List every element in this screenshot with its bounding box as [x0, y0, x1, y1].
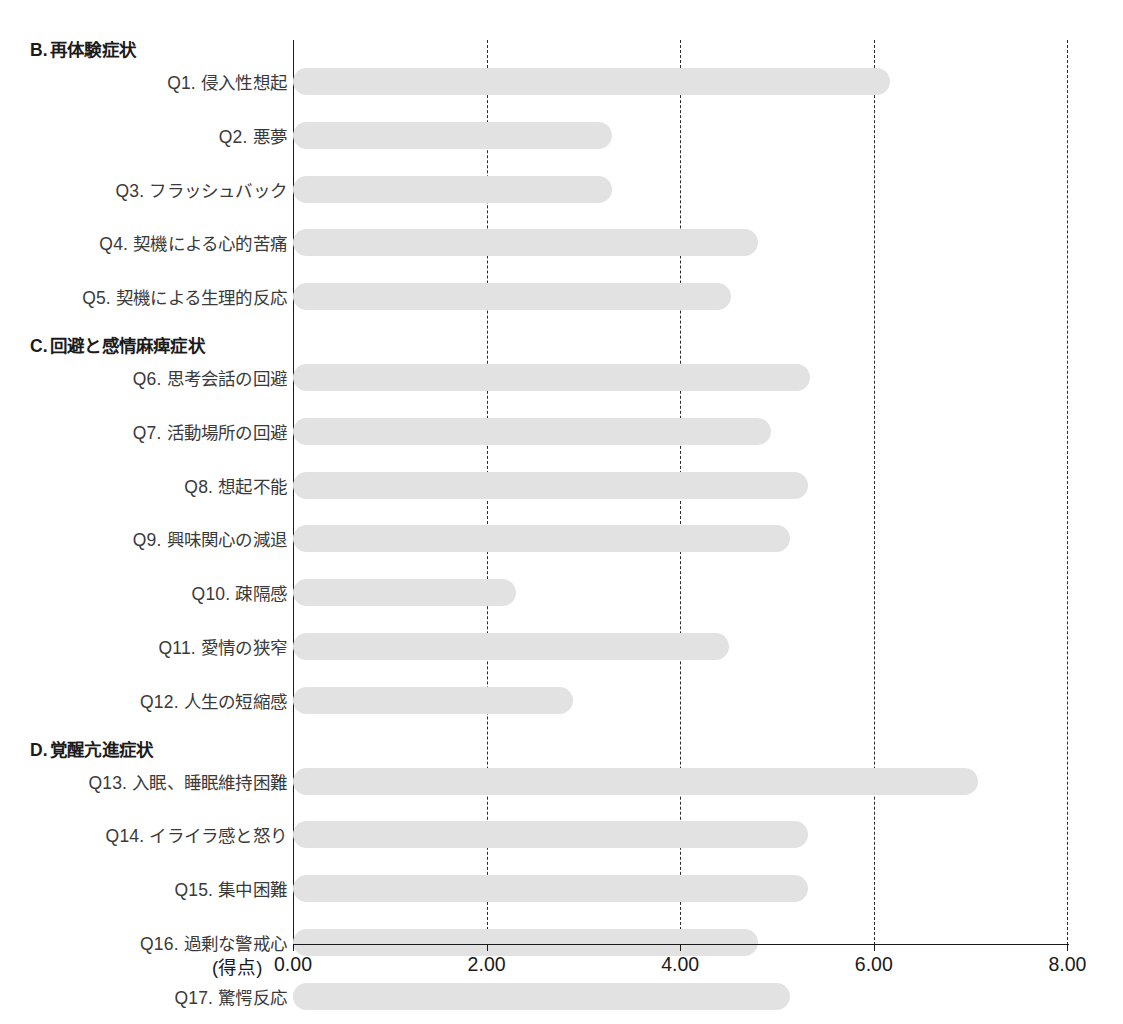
bar: [293, 68, 890, 95]
x-axis-unit-label: (得点): [212, 953, 262, 979]
section-heading-C: C.回避と感情麻痺症状: [30, 332, 205, 357]
section-heading-B: B.再体験症状: [30, 36, 136, 61]
bar-chart: B.再体験症状Q1. 侵入性想起Q2. 悪夢Q3. フラッシュバックQ4. 契機…: [0, 0, 1123, 1024]
bar: [293, 821, 808, 848]
bar-label: Q1. 侵入性想起: [167, 69, 287, 94]
section-title: 再体験症状: [50, 40, 136, 60]
bar: [293, 176, 612, 203]
gridline-6.00: [874, 40, 875, 945]
bar-label: Q4. 契機による心的苦痛: [99, 230, 287, 255]
section-letter: C.: [30, 336, 50, 357]
bar: [293, 525, 790, 552]
bar: [293, 768, 978, 795]
gridline-8.00: [1067, 40, 1068, 945]
bar-label: Q5. 契機による生理的反応: [82, 284, 287, 309]
bar: [293, 875, 808, 902]
bar-label: Q10. 疎隔感: [192, 580, 287, 605]
y-axis-line: [293, 40, 294, 945]
bar-label: Q9. 興味関心の減退: [133, 526, 287, 551]
bar: [293, 122, 612, 149]
section-title: 回避と感情麻痺症状: [50, 336, 205, 356]
section-heading-D: D.覚醒亢進症状: [30, 736, 153, 761]
x-tick-label-4.00: 4.00: [661, 953, 699, 976]
bar-label: Q15. 集中困難: [174, 876, 287, 901]
x-tick-label-2.00: 2.00: [468, 953, 506, 976]
section-title: 覚醒亢進症状: [50, 740, 153, 760]
x-tick-8.00: [1067, 944, 1068, 951]
bar: [293, 687, 573, 714]
bar-label: Q7. 活動場所の回避: [133, 419, 287, 444]
bar: [293, 579, 516, 606]
x-tick-2.00: [487, 944, 488, 951]
bar-label: Q12. 人生の短縮感: [140, 688, 287, 713]
bar: [293, 472, 808, 499]
bar-label: Q16. 過剰な警戒心: [140, 930, 287, 955]
chart-page: B.再体験症状Q1. 侵入性想起Q2. 悪夢Q3. フラッシュバックQ4. 契機…: [0, 0, 1123, 1024]
x-tick-4.00: [680, 944, 681, 951]
bar-label: Q6. 思考会話の回避: [133, 365, 287, 390]
section-letter: B.: [30, 40, 50, 61]
bar: [293, 229, 758, 256]
bar-label: Q3. フラッシュバック: [116, 177, 287, 202]
bar: [293, 929, 758, 956]
bar: [293, 983, 790, 1010]
bar: [293, 364, 810, 391]
bar-label: Q8. 想起不能: [184, 473, 287, 498]
bar-label: Q13. 入眠、睡眠維持困難: [88, 769, 287, 794]
x-tick-label-0.00: 0.00: [274, 953, 312, 976]
bar: [293, 418, 771, 445]
x-tick-6.00: [874, 944, 875, 951]
x-tick-label-8.00: 8.00: [1048, 953, 1086, 976]
bar: [293, 283, 731, 310]
bar-label: Q11. 愛情の狭窄: [158, 634, 287, 659]
bar-label: Q17. 驚愕反応: [174, 984, 287, 1009]
bar: [293, 633, 729, 660]
x-tick-0.00: [293, 944, 294, 951]
section-letter: D.: [30, 740, 50, 761]
x-tick-label-6.00: 6.00: [855, 953, 893, 976]
bar-label: Q2. 悪夢: [219, 123, 287, 148]
bar-label: Q14. イライラ感と怒り: [106, 822, 287, 847]
